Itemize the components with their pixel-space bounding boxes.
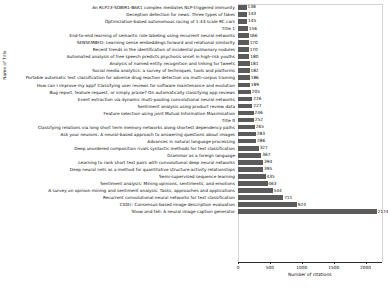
bar-track: 463 [238,180,388,187]
bar-track: 145 [238,18,388,25]
bar-category-label: CIDEr: Consensus-based image description… [0,202,238,207]
bar-value-label: 182 [250,68,258,74]
bar-row: Event extraction via dynamic multi-pooli… [0,96,388,103]
bar-row: Portable automatic text classification f… [0,74,388,81]
bar [238,160,263,165]
bar-row: An RLP23-SOBIR1-BAK1 complex mediates NL… [0,4,388,11]
bar-category-label: Ask your neurons: A neural-based approac… [0,132,238,137]
bar [238,118,254,123]
bar-track: 182 [238,67,388,74]
bar-row: Automated analysis of free speech predic… [0,53,388,60]
bar-value-label: 138 [248,4,256,10]
bar [238,167,263,172]
bar [238,12,247,17]
bar [238,33,249,38]
bar-row: Title 0252 [0,117,388,124]
bar-track: 435 [238,173,388,180]
bar-track: 711 [238,194,388,201]
bar-track: 227 [238,103,388,110]
citations-bar-chart: Name of Title An RLP23-SOBIR1-BAK1 compl… [0,0,388,290]
bar-value-label: 286 [257,138,265,144]
bar-row: How can I improve my app? Classifying us… [0,82,388,89]
bar-category-label: Sentiment analysis using product review … [0,104,238,109]
bar-value-label: 227 [253,103,261,109]
bar-track: 170 [238,39,388,46]
bar-category-label: Title 1 [0,26,238,31]
bar-row: A survey on opinion mining and sentiment… [0,187,388,194]
bar-track: 327 [238,145,388,152]
bar-track: 138 [238,4,388,11]
bar [238,104,252,109]
plot-area: An RLP23-SOBIR1-BAK1 complex mediates NL… [0,4,388,262]
bar-track: 205 [238,89,388,96]
bar-row: SENSEMBED: Learning sense embeddings for… [0,39,388,46]
bar-category-label: Deep unordered composition rivals syntac… [0,146,238,151]
bar-value-label: 205 [252,89,260,95]
bar [238,75,250,80]
bar-category-label: Optimization-based autonomous racing of … [0,19,238,24]
bar-row: Ask your neurons: A neural-based approac… [0,131,388,138]
bar-category-label: SENSEMBED: Learning sense embeddings for… [0,40,238,45]
bar-value-label: 166 [249,33,257,39]
bar [238,26,248,31]
bar-category-label: How can I improve my app? Classifying us… [0,83,238,88]
bar-value-label: 711 [284,195,292,201]
bar-category-label: Recent trends in the identification of i… [0,47,238,52]
bar-value-label: 252 [255,117,263,123]
bar-row: Optimization-based autonomous racing of … [0,18,388,25]
bar-track: 180 [238,53,388,60]
x-axis: 0500100015002000 Number of citations [238,262,386,290]
bar-category-label: Feature selection using joint Mutual Inf… [0,111,238,116]
bar-row: Sentiment analysis: Mining opinions, sen… [0,180,388,187]
bar-category-label: End-to-end learning of semantic role lab… [0,33,238,38]
bar [238,139,256,144]
bar-value-label: 367 [262,152,270,158]
x-axis-tick-label: 0 [237,265,240,270]
bar-category-label: Analysis of named entity recognition and… [0,61,238,66]
bar-row: Recent trends in the identification of i… [0,46,388,53]
bar-row: Sentiment analysis using product review … [0,103,388,110]
bar-value-label: 170 [250,47,258,53]
bar-value-label: 463 [268,181,276,187]
bar-track: 2174 [238,208,388,215]
bar-category-label: Title 0 [0,118,238,123]
x-axis-tick-label: 500 [266,265,274,270]
bar-track: 286 [238,138,388,145]
bar [238,90,251,95]
bar-value-label: 246 [254,110,262,116]
bar-track: 189 [238,82,388,89]
x-axis-label: Number of citations [238,272,382,277]
bar-row: Feature selection using joint Mutual Inf… [0,110,388,117]
bar [238,153,261,158]
bar-value-label: 924 [298,202,306,208]
bar-track: 226 [238,96,388,103]
x-axis-tick-label: 2000 [360,265,371,270]
bar-value-label: 189 [251,82,259,88]
bar-category-label: Learning to rank short text pairs with c… [0,160,238,165]
bar-value-label: 143 [248,11,256,17]
bar [238,5,247,10]
bar-category-label: Portable automatic text classification f… [0,75,238,80]
bar-row: Deep neural nets as a method for quantit… [0,166,388,173]
bar-value-label: 544 [273,188,281,194]
bar-value-label: 145 [248,18,256,24]
bar [238,40,249,45]
bar-track: 395 [238,166,388,173]
bar-track: 166 [238,32,388,39]
bar [238,125,255,130]
bar [238,68,250,73]
bar-track: 246 [238,110,388,117]
bar-row: Recurrent convolutional neural networks … [0,194,388,201]
bar-category-label: Event extraction via dynamic multi-pooli… [0,97,238,102]
bar-value-label: 180 [250,54,258,60]
x-axis-tick-label: 1000 [296,265,307,270]
bar-category-label: Show and tell: A neural image caption ge… [0,209,238,214]
bar-category-label: A survey on opinion mining and sentiment… [0,188,238,193]
bar [238,111,254,116]
bar-value-label: 170 [250,40,258,46]
bar-row: Learning to rank short text pairs with c… [0,159,388,166]
bar-category-label: Bug report, feature request, or simply p… [0,90,238,95]
bar-value-label: 395 [264,166,272,172]
bar-track: 186 [238,74,388,81]
bar-row: Show and tell: A neural image caption ge… [0,208,388,215]
